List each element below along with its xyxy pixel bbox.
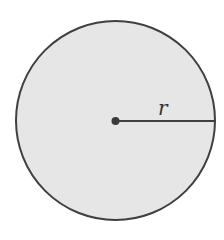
center-point [112, 117, 120, 125]
diagram-canvas: r [0, 0, 224, 240]
circle-diagram: r [0, 0, 224, 240]
radius-label: r [158, 96, 169, 120]
